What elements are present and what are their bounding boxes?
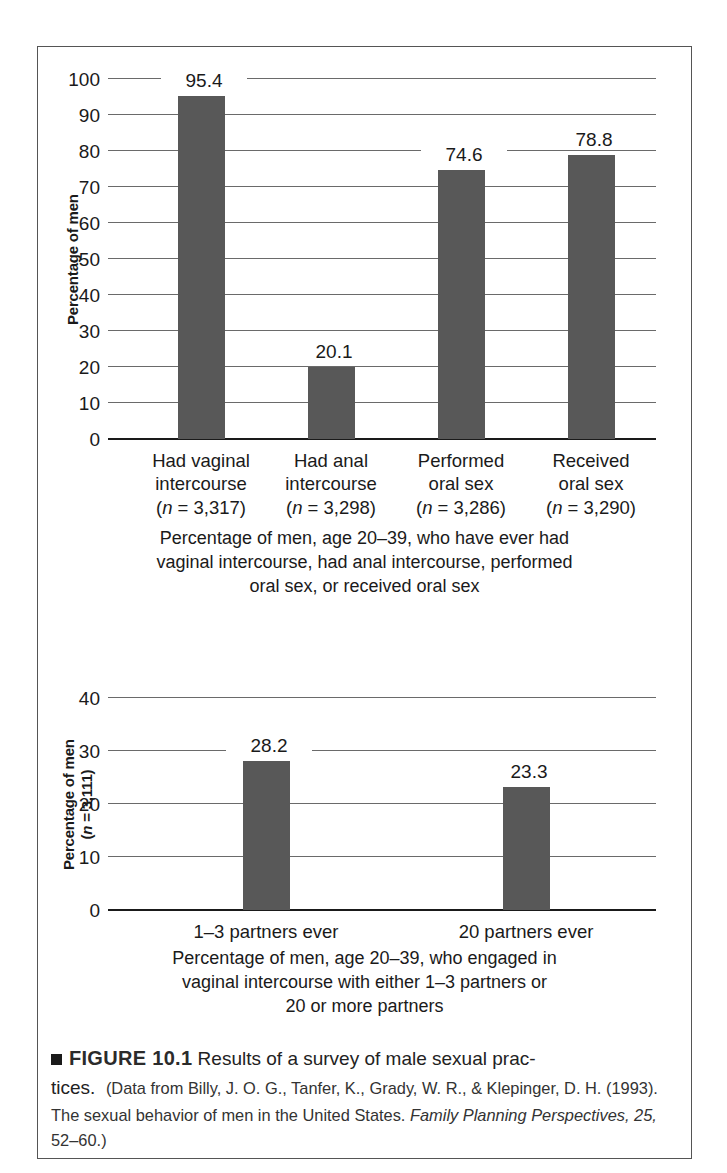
- tick-stub-40: [108, 697, 136, 698]
- y-tick-label-10: 10: [38, 848, 100, 867]
- tick-stub-30: [108, 330, 136, 331]
- tick-stub-100: [108, 78, 136, 79]
- category-sample-size-1: (n = 3,298): [266, 496, 396, 519]
- bar-value-label-0: 28.2: [226, 736, 312, 755]
- caption-line: Percentage of men, age 20–39, who have e…: [38, 527, 691, 551]
- bar-3: [568, 155, 615, 439]
- category-label-line: Had anal: [266, 449, 396, 472]
- y-tick-label-60: 60: [38, 214, 100, 233]
- caption-line: Percentage of men, age 20–39, who engage…: [38, 947, 691, 971]
- category-label-line: Received: [526, 449, 656, 472]
- tick-stub-60: [108, 222, 136, 223]
- bar-value-label-1: 23.3: [486, 762, 572, 781]
- tick-stub-20: [108, 366, 136, 367]
- category-label-line: 20 partners ever: [396, 920, 656, 943]
- gridline-40: [136, 697, 656, 698]
- tick-stub-80: [108, 150, 136, 151]
- category-label-0: 1–3 partners ever: [136, 920, 396, 943]
- tick-stub-50: [108, 258, 136, 259]
- bar-2: [438, 170, 485, 439]
- bar-1: [503, 787, 550, 910]
- category-label-0: Had vaginalintercourse(n = 3,317): [136, 449, 266, 519]
- bottom-bar-chart: Percentage of men (n = 3,111) 0102030402…: [38, 647, 691, 1067]
- y-tick-label-20: 20: [38, 795, 100, 814]
- figure-caption: FIGURE 10.1 Results of a survey of male …: [51, 1043, 676, 1153]
- y-tick-label-40: 40: [38, 689, 100, 708]
- y-tick-label-0: 0: [38, 901, 100, 920]
- bar-value-label-3: 78.8: [551, 130, 637, 149]
- y-tick-label-10: 10: [38, 394, 100, 413]
- category-sample-size-3: (n = 3,290): [526, 496, 656, 519]
- y-tick-label-70: 70: [38, 178, 100, 197]
- caption-bullet-icon: [51, 1054, 62, 1065]
- y-tick-label-0: 0: [38, 430, 100, 449]
- category-label-line: Performed: [396, 449, 526, 472]
- chart-bottom-caption: Percentage of men, age 20–39, who engage…: [38, 947, 691, 1018]
- y-tick-label-80: 80: [38, 142, 100, 161]
- tick-stub-10: [108, 856, 136, 857]
- figure-source-text: (Data from Billy, J. O. G., Tanfer, K., …: [51, 1079, 658, 1149]
- category-label-3: Receivedoral sex(n = 3,290): [526, 449, 656, 519]
- bar-value-label-2: 74.6: [421, 145, 507, 164]
- y-tick-label-100: 100: [38, 70, 100, 89]
- caption-line: oral sex, or received oral sex: [38, 575, 691, 599]
- figure-number: FIGURE 10.1: [69, 1047, 192, 1069]
- gridline-10: [136, 856, 656, 857]
- bar-value-label-0: 95.4: [161, 71, 247, 90]
- category-sample-size-2: (n = 3,286): [396, 496, 526, 519]
- caption-line: vaginal intercourse, had anal intercours…: [38, 551, 691, 575]
- figure-source-journal: Family Planning Perspectives, 25,: [410, 1106, 657, 1124]
- category-label-line: intercourse: [266, 472, 396, 495]
- category-label-line: oral sex: [526, 472, 656, 495]
- category-label-1: 20 partners ever: [396, 920, 656, 943]
- y-tick-label-90: 90: [38, 106, 100, 125]
- figure-frame: Percentage of men 0102030405060708090100…: [37, 46, 692, 1159]
- category-label-line: Had vaginal: [136, 449, 266, 472]
- tick-stub-30: [108, 750, 136, 751]
- tick-stub-70: [108, 186, 136, 187]
- y-tick-label-40: 40: [38, 286, 100, 305]
- tick-stub-10: [108, 402, 136, 403]
- bar-0: [178, 96, 225, 439]
- caption-line: vaginal intercourse with either 1–3 part…: [38, 971, 691, 995]
- bar-value-label-1: 20.1: [291, 342, 377, 361]
- gridline-20: [136, 803, 656, 804]
- y-tick-label-30: 30: [38, 322, 100, 341]
- tick-stub-0: [108, 438, 136, 440]
- top-bar-chart: Percentage of men 0102030405060708090100…: [38, 47, 691, 607]
- category-label-line: intercourse: [136, 472, 266, 495]
- category-sample-size-0: (n = 3,317): [136, 496, 266, 519]
- y-tick-label-30: 30: [38, 742, 100, 761]
- tick-stub-0: [108, 909, 136, 911]
- category-label-1: Had analintercourse(n = 3,298): [266, 449, 396, 519]
- category-label-line: 1–3 partners ever: [136, 920, 396, 943]
- y-tick-label-50: 50: [38, 250, 100, 269]
- category-label-line: oral sex: [396, 472, 526, 495]
- caption-line: 20 or more partners: [38, 995, 691, 1019]
- category-label-2: Performedoral sex(n = 3,286): [396, 449, 526, 519]
- bar-1: [308, 367, 355, 439]
- y-tick-label-20: 20: [38, 358, 100, 377]
- gridline-30: [136, 750, 656, 751]
- gridline-0: [136, 909, 656, 911]
- bar-0: [243, 761, 290, 910]
- tick-stub-90: [108, 114, 136, 115]
- tick-stub-20: [108, 803, 136, 804]
- tick-stub-40: [108, 294, 136, 295]
- chart-top-caption: Percentage of men, age 20–39, who have e…: [38, 527, 691, 598]
